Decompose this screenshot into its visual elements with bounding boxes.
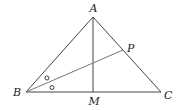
angle-mark-upper-icon	[45, 76, 49, 80]
label-c: C	[164, 89, 173, 102]
segment-bp	[26, 50, 123, 92]
angle-mark-lower-icon	[50, 86, 54, 90]
triangle-diagram: A B C M P	[0, 0, 182, 110]
label-a: A	[89, 2, 98, 15]
label-p: P	[126, 42, 135, 55]
label-m: M	[88, 95, 101, 108]
label-b: B	[12, 86, 21, 99]
segment-ab	[26, 17, 93, 92]
